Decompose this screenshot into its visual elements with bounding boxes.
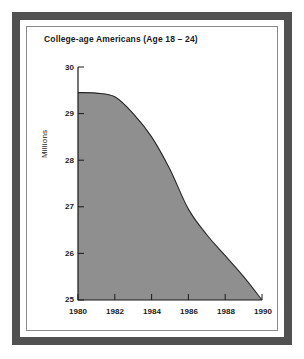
figure-container: College-age Americans (Age 18 – 24) Mill… — [0, 0, 304, 359]
plot-area — [0, 0, 304, 359]
area-fill-path — [78, 93, 262, 300]
area-series-group — [78, 93, 262, 300]
